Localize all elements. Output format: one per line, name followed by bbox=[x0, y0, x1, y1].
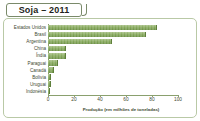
bar bbox=[48, 88, 50, 94]
category-label: China bbox=[34, 45, 46, 52]
bar bbox=[48, 81, 51, 87]
bar bbox=[48, 53, 66, 59]
category-label: Canadá bbox=[30, 67, 46, 74]
x-tick-label: 0 bbox=[38, 97, 58, 102]
chart-title-container: Soja – 2011 bbox=[6, 3, 84, 18]
bar-row bbox=[48, 31, 178, 38]
category-label: Índia bbox=[36, 52, 46, 59]
bar bbox=[48, 39, 112, 45]
x-tick-label: 80 bbox=[142, 97, 162, 102]
bar-row bbox=[48, 67, 178, 74]
bar bbox=[48, 25, 157, 31]
x-tick-label: 60 bbox=[116, 97, 136, 102]
chart-figure: Soja – 2011 Estados UnidosBrasilArgentin… bbox=[0, 0, 200, 121]
x-tick-label: 100 bbox=[168, 97, 188, 102]
bar bbox=[48, 46, 66, 52]
bar-row bbox=[48, 60, 178, 67]
bar-row bbox=[48, 88, 178, 95]
bar bbox=[48, 32, 146, 38]
bar-row bbox=[48, 24, 178, 31]
bar-row bbox=[48, 81, 178, 88]
plot-area bbox=[48, 24, 178, 95]
category-label: Bolívia bbox=[32, 74, 46, 81]
x-tick-label: 20 bbox=[64, 97, 84, 102]
category-label: Uruguai bbox=[30, 81, 46, 88]
bar bbox=[48, 67, 54, 73]
bar-row bbox=[48, 38, 178, 45]
bar-row bbox=[48, 52, 178, 59]
bar-row bbox=[48, 74, 178, 81]
page-title: Soja – 2011 bbox=[6, 3, 82, 17]
bar bbox=[48, 60, 58, 66]
bar-row bbox=[48, 45, 178, 52]
category-label: Brasil bbox=[35, 31, 47, 38]
category-label: Indonésia bbox=[26, 88, 46, 95]
title-fold-decoration bbox=[82, 4, 87, 16]
category-label: Estados Unidos bbox=[14, 24, 46, 31]
bar bbox=[48, 74, 51, 80]
x-tick-label: 40 bbox=[90, 97, 110, 102]
category-label: Argentina bbox=[26, 38, 46, 45]
category-label: Paraguai bbox=[28, 60, 46, 67]
x-axis-label: Produção (em milhões de toneladas) bbox=[48, 107, 194, 112]
